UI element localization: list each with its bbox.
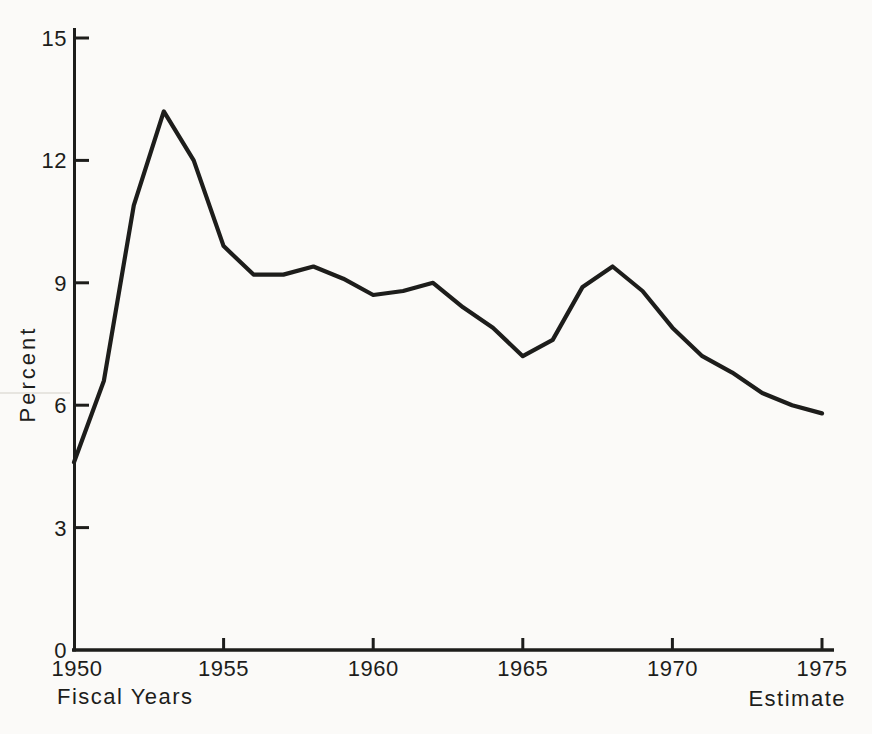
x-tick-label: 1950 [52,656,103,681]
y-tick-label: 3 [54,516,67,541]
scan-artifact-line [0,392,70,394]
axes [72,28,834,652]
x-tick-label: 1970 [647,656,698,681]
x-tick-label: 1955 [198,656,249,681]
x-tick-label: 1965 [497,656,548,681]
y-tick-label: 12 [42,148,67,173]
data-series [74,111,822,462]
axis-tick-labels: 03691215195019551960196519701975 [42,26,848,681]
y-axis-title: Percent [15,326,41,423]
y-tick-label: 9 [54,271,67,296]
y-tick-label: 6 [54,393,67,418]
estimate-note: Estimate [748,686,846,712]
y-tick-label: 15 [42,26,67,51]
x-axis-title: Fiscal Years [57,684,194,710]
axis-ticks [74,38,822,650]
line-chart: 03691215195019551960196519701975 [0,0,872,734]
x-tick-label: 1975 [797,656,848,681]
chart-page: 03691215195019551960196519701975 Percent… [0,0,872,734]
x-tick-label: 1960 [348,656,399,681]
percent-line [74,111,822,462]
